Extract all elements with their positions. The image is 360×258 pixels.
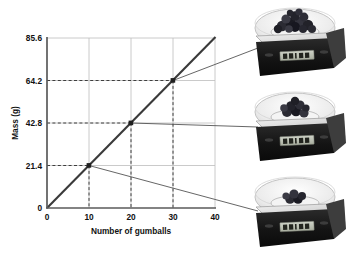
x-tick-label-0: 0 (45, 212, 50, 222)
gumball-mass-figure: 85.6 64.2 42.8 21.4 0 0 10 20 30 40 Numb… (0, 0, 360, 258)
x-tick-label-40: 40 (210, 212, 220, 222)
tare-button[interactable] (265, 138, 273, 141)
y-tick-label-0: 0 (37, 203, 42, 213)
scale-photo-bottom (248, 171, 352, 253)
y-tick-label-21-4: 21.4 (26, 161, 43, 171)
x-tick-label-10: 10 (84, 212, 94, 222)
y-tick-label-85-6: 85.6 (26, 33, 43, 43)
data-point-30-64-2 (171, 78, 176, 83)
tare-button[interactable] (265, 224, 273, 227)
scale-photo-middle (248, 86, 352, 168)
leader-lines (89, 48, 258, 211)
y-tick-label-64-2: 64.2 (26, 76, 43, 86)
x-tick-label-20: 20 (126, 212, 136, 222)
x-axis-title: Number of gumballs (91, 226, 172, 236)
leader-line-to-scale-middle (131, 123, 258, 127)
power-button[interactable] (320, 135, 328, 138)
x-tick-label-30: 30 (168, 212, 178, 222)
leader-line-to-scale-top (173, 48, 258, 81)
power-button[interactable] (320, 50, 328, 53)
y-axis-title: Mass (g) (10, 106, 20, 140)
scale-photo-top (248, 2, 352, 84)
y-tick-label-42-8: 42.8 (26, 118, 43, 128)
data-point-20-42-8 (129, 121, 134, 126)
power-button[interactable] (320, 221, 328, 224)
data-point-10-21-4 (87, 163, 92, 168)
leader-line-to-scale-bottom (89, 166, 258, 212)
tare-button[interactable] (265, 53, 273, 56)
